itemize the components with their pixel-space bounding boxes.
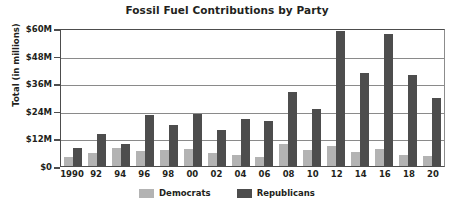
y-tick-label: $60M [0, 24, 52, 34]
bar-democrats-1990[interactable] [64, 157, 73, 166]
y-tick-label: $12M [0, 134, 52, 144]
bar-republicans-04[interactable] [241, 119, 250, 166]
bar-group[interactable] [205, 30, 229, 166]
bar-republicans-16[interactable] [384, 34, 393, 166]
bar-republicans-10[interactable] [312, 109, 321, 167]
x-tick-label: 1990 [60, 169, 84, 183]
y-tick-label: $36M [0, 79, 52, 89]
bar-group[interactable] [348, 30, 372, 166]
bar-democrats-18[interactable] [399, 155, 408, 167]
bar-democrats-20[interactable] [423, 156, 432, 166]
bar-group[interactable] [372, 30, 396, 166]
bar-republicans-14[interactable] [360, 73, 369, 166]
bar-republicans-94[interactable] [121, 144, 130, 166]
x-tick-label: 94 [108, 169, 132, 183]
bar-republicans-20[interactable] [432, 98, 441, 166]
bar-group[interactable] [109, 30, 133, 166]
bar-republicans-92[interactable] [97, 134, 106, 166]
bar-chart: Fossil Fuel Contributions by Party Total… [0, 0, 454, 207]
bar-group[interactable] [85, 30, 109, 166]
x-tick-label: 08 [277, 169, 301, 183]
bar-republicans-18[interactable] [408, 75, 417, 166]
bar-democrats-10[interactable] [303, 150, 312, 166]
bar-republicans-1990[interactable] [73, 148, 82, 166]
x-tick-label: 98 [156, 169, 180, 183]
bar-group[interactable] [61, 30, 85, 166]
chart-legend: Democrats Republicans [0, 188, 454, 198]
x-tick-label: 06 [253, 169, 277, 183]
bar-republicans-96[interactable] [145, 115, 154, 166]
x-tick-label: 04 [228, 169, 252, 183]
y-tick-label: $0 [0, 162, 52, 172]
legend-swatch-democrats-icon [139, 189, 154, 198]
bar-group[interactable] [324, 30, 348, 166]
bar-group[interactable] [181, 30, 205, 166]
legend-swatch-republicans-icon [237, 189, 252, 198]
bar-group[interactable] [300, 30, 324, 166]
bar-group[interactable] [420, 30, 444, 166]
bar-republicans-00[interactable] [193, 114, 202, 166]
bar-democrats-94[interactable] [112, 148, 121, 166]
y-tick-label: $48M [0, 52, 52, 62]
legend-item-republicans: Republicans [237, 188, 315, 198]
legend-label-democrats: Democrats [159, 188, 211, 198]
bar-democrats-98[interactable] [160, 150, 169, 166]
bar-democrats-04[interactable] [232, 155, 241, 167]
bar-group[interactable] [253, 30, 277, 166]
bar-republicans-08[interactable] [288, 92, 297, 166]
bar-group[interactable] [276, 30, 300, 166]
x-tick-label: 00 [180, 169, 204, 183]
chart-title: Fossil Fuel Contributions by Party [0, 4, 454, 16]
bar-democrats-08[interactable] [279, 144, 288, 166]
x-tick-label: 10 [301, 169, 325, 183]
x-tick-label: 14 [349, 169, 373, 183]
bar-democrats-16[interactable] [375, 149, 384, 166]
bar-group[interactable] [157, 30, 181, 166]
bar-democrats-92[interactable] [88, 153, 97, 166]
bar-group[interactable] [396, 30, 420, 166]
x-tick-label: 92 [84, 169, 108, 183]
bar-group[interactable] [229, 30, 253, 166]
bar-group[interactable] [133, 30, 157, 166]
bar-democrats-96[interactable] [136, 151, 145, 166]
bar-republicans-06[interactable] [264, 121, 273, 166]
bar-democrats-00[interactable] [184, 149, 193, 166]
bar-democrats-06[interactable] [255, 157, 264, 166]
bar-democrats-02[interactable] [208, 153, 217, 166]
bar-republicans-12[interactable] [336, 31, 345, 166]
x-tick-label: 20 [421, 169, 445, 183]
x-tick-label: 18 [397, 169, 421, 183]
y-tick-label: $24M [0, 107, 52, 117]
legend-label-republicans: Republicans [257, 188, 315, 198]
legend-item-democrats: Democrats [139, 188, 211, 198]
bar-republicans-02[interactable] [217, 130, 226, 166]
x-tick-label: 02 [204, 169, 228, 183]
x-axis-labels: 1990929496980002040608101214161820 [60, 169, 445, 183]
x-tick-label: 96 [132, 169, 156, 183]
plot-area [60, 29, 445, 167]
x-tick-label: 12 [325, 169, 349, 183]
x-tick-label: 16 [373, 169, 397, 183]
bars-layer [61, 30, 444, 166]
bar-democrats-12[interactable] [327, 146, 336, 166]
bar-democrats-14[interactable] [351, 152, 360, 166]
bar-republicans-98[interactable] [169, 125, 178, 166]
